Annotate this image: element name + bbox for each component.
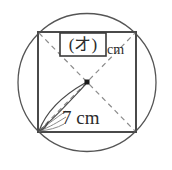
answer-unit-label: cm: [107, 42, 124, 57]
diagonal-measurement-label: 7 cm: [62, 107, 100, 128]
figure-canvas: (オ) cm 7 cm: [0, 0, 172, 170]
center-dot: [85, 80, 90, 85]
geometry-figure: (オ) cm 7 cm: [0, 0, 172, 170]
answer-label-text: (オ): [69, 35, 97, 54]
